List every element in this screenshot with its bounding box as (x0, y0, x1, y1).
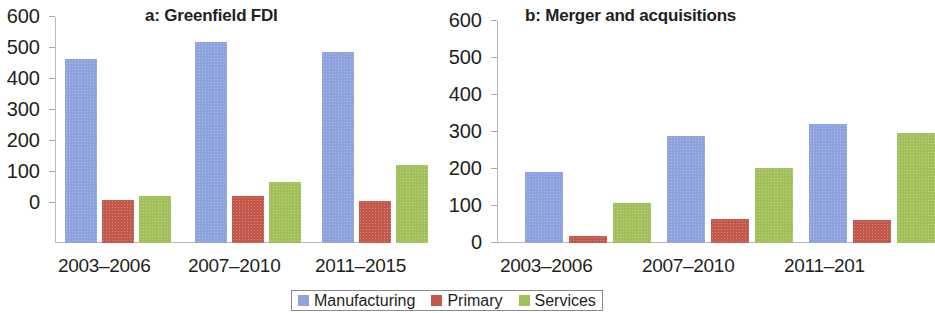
x-category-label-2: 2007–2010 (188, 255, 280, 277)
bar-services-1 (139, 196, 171, 243)
bar-services-2 (269, 182, 301, 243)
y-tick-100: 100 (491, 205, 497, 206)
legend-item-services: Services (519, 293, 596, 309)
y-tick-400: 400 (491, 94, 497, 95)
bar-services-2 (755, 168, 793, 243)
y-tick-label-600: 600 (7, 6, 40, 26)
y-tick-label-0: 0 (471, 232, 482, 252)
panel-greenfield-fdi: a: Greenfield FDI 0100200300400500600 20… (0, 0, 440, 285)
y-tick-0: 0 (49, 202, 55, 203)
bar-primary-2 (232, 196, 264, 243)
y-tick-600: 600 (491, 20, 497, 21)
y-tick-500: 500 (49, 47, 55, 48)
bar-manufacturing-1 (65, 59, 97, 243)
bar-primary-3 (359, 201, 391, 243)
bar-services-3 (897, 133, 935, 243)
legend-swatch-icon-services (519, 295, 530, 306)
bar-services-3 (396, 165, 428, 243)
y-tick-label-400: 400 (7, 68, 40, 88)
bar-services-1 (613, 203, 651, 243)
panel-b-plot-area: 0100200300400500600 (497, 21, 873, 243)
panel-a-y-axis (55, 17, 56, 243)
bar-primary-1 (569, 236, 607, 243)
legend-swatch-icon-primary (431, 295, 442, 306)
panel-merger-and-acquisitions: b: Merger and acquisitions 0100200300400… (440, 0, 873, 285)
y-tick-0: 0 (491, 242, 497, 243)
y-tick-500: 500 (491, 57, 497, 58)
y-tick-label-400: 400 (449, 84, 482, 104)
y-tick-300: 300 (49, 109, 55, 110)
bar-manufacturing-2 (667, 136, 705, 243)
bar-manufacturing-3 (322, 52, 354, 243)
chart-legend: ManufacturingPrimaryServices (291, 290, 603, 311)
legend-label-services: Services (535, 293, 596, 309)
y-tick-label-500: 500 (449, 47, 482, 67)
y-tick-label-200: 200 (7, 130, 40, 150)
y-tick-label-600: 600 (449, 10, 482, 30)
bar-primary-3 (853, 220, 891, 243)
legend-label-primary: Primary (447, 293, 502, 309)
y-tick-400: 400 (49, 78, 55, 79)
y-tick-label-200: 200 (449, 158, 482, 178)
bar-manufacturing-2 (195, 42, 227, 243)
x-category-label-3: 2011–201 (784, 255, 865, 277)
y-tick-200: 200 (491, 168, 497, 169)
x-category-label-1: 2003–2006 (58, 255, 150, 277)
legend-item-primary: Primary (431, 293, 502, 309)
legend-label-manufacturing: Manufacturing (314, 293, 415, 309)
y-tick-label-300: 300 (449, 121, 482, 141)
y-tick-100: 100 (49, 171, 55, 172)
y-tick-300: 300 (491, 131, 497, 132)
y-tick-600: 600 (49, 16, 55, 17)
bar-primary-1 (102, 200, 134, 243)
x-category-label-2: 2007–2010 (642, 255, 734, 277)
bar-manufacturing-3 (809, 124, 847, 244)
y-tick-label-100: 100 (449, 195, 482, 215)
x-category-label-1: 2003–2006 (500, 255, 592, 277)
y-tick-label-100: 100 (7, 161, 40, 181)
panel-a-plot-area: 0100200300400500600 (55, 17, 385, 243)
y-tick-200: 200 (49, 140, 55, 141)
legend-item-manufacturing: Manufacturing (298, 293, 415, 309)
legend-swatch-icon-manufacturing (298, 295, 309, 306)
panel-b-y-axis (497, 21, 498, 243)
bar-primary-2 (711, 219, 749, 243)
y-tick-label-300: 300 (7, 99, 40, 119)
bar-manufacturing-1 (525, 172, 563, 243)
y-tick-label-500: 500 (7, 37, 40, 57)
y-tick-label-0: 0 (29, 192, 40, 212)
x-category-label-3: 2011–2015 (315, 255, 406, 277)
